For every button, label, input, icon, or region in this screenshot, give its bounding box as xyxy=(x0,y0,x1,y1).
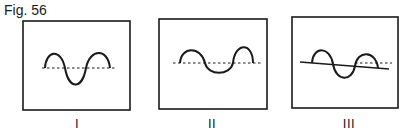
panel-2-frame xyxy=(159,19,267,109)
panel-2-wave xyxy=(180,47,253,73)
panel-1-label: I xyxy=(75,116,79,131)
panel-2-label: II xyxy=(208,116,216,131)
panel-2 xyxy=(159,19,267,109)
figure-canvas xyxy=(0,0,418,135)
panel-1 xyxy=(23,21,130,110)
panel-3 xyxy=(292,17,398,108)
panel-3-label: III xyxy=(343,116,355,131)
panel-1-frame xyxy=(23,21,130,110)
panel-1-wave xyxy=(45,53,110,85)
